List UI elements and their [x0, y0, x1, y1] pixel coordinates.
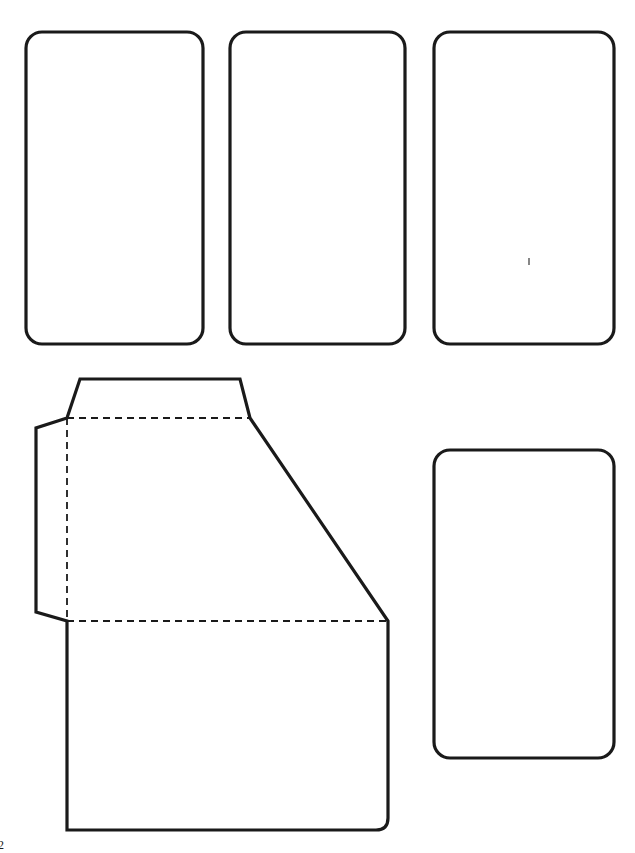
page-number: 2	[0, 839, 4, 851]
page-background	[0, 0, 635, 853]
diagram-page: 2	[0, 0, 635, 853]
dieline-diagram	[0, 0, 635, 853]
